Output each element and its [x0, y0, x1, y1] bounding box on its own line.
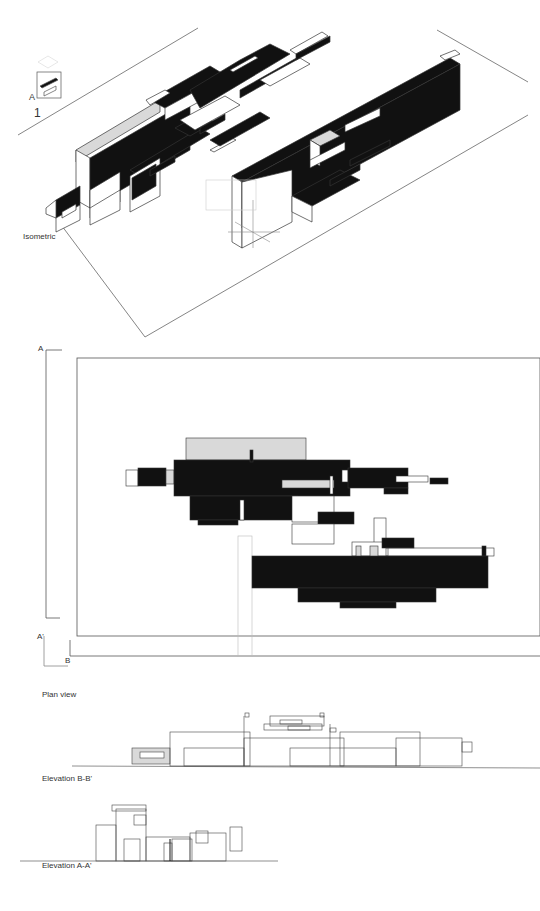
elevation-aa-panel: Elevation A-A' [0, 795, 540, 895]
sheet-number: 1 [34, 106, 41, 120]
isometric-panel: A 1 Isometric [0, 0, 540, 340]
elevation-bb-caption: Elevation B-B' [42, 774, 92, 783]
key-plan-marker: A [29, 92, 35, 102]
elevation-bb-panel: Elevation B-B' [0, 700, 540, 780]
plan-panel: A A' B Plan view [0, 340, 540, 700]
elevation-aa-caption: Elevation A-A' [42, 861, 92, 870]
elevation-bb-drawing [0, 700, 540, 780]
key-plan-icon [37, 56, 61, 98]
isometric-drawing [0, 0, 540, 340]
plan-drawing [0, 340, 540, 700]
elevation-aa-drawing [0, 795, 540, 895]
section-a-start-marker: A [38, 344, 43, 353]
section-b-start-marker: B [65, 656, 70, 665]
plan-caption: Plan view [42, 690, 76, 699]
section-a-end-marker: A' [37, 632, 44, 641]
isometric-caption: Isometric [23, 232, 55, 241]
